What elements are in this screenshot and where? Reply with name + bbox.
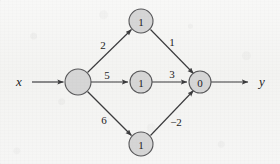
graph-canvas: 1 1 1 0 2 5 6 1 3 −2 x y bbox=[0, 0, 280, 164]
edge-weight-hub-to-top: 2 bbox=[100, 39, 106, 51]
node-bottom-label: 1 bbox=[138, 139, 144, 151]
edge-weight-hub-to-bottom: 6 bbox=[101, 114, 107, 126]
edge-weight-hub-to-middle: 5 bbox=[104, 69, 110, 81]
signal-flow-graph-figure: 1 1 1 0 2 5 6 1 3 −2 x y bbox=[0, 0, 280, 164]
node-hub[interactable] bbox=[65, 69, 91, 95]
input-label-x: x bbox=[15, 74, 22, 89]
node-output-label: 0 bbox=[197, 77, 203, 89]
edge-weight-middle-to-out: 3 bbox=[169, 68, 175, 80]
edge-weight-bottom-to-out: −2 bbox=[170, 116, 182, 128]
edge-weight-top-to-out: 1 bbox=[169, 36, 175, 48]
output-label-y: y bbox=[257, 74, 265, 89]
edge-bottom-to-out bbox=[151, 91, 194, 136]
node-top-label: 1 bbox=[138, 16, 144, 28]
edge-hub-to-top bbox=[88, 30, 132, 73]
edge-hub-to-bottom bbox=[88, 92, 132, 136]
node-middle-label: 1 bbox=[138, 77, 144, 89]
